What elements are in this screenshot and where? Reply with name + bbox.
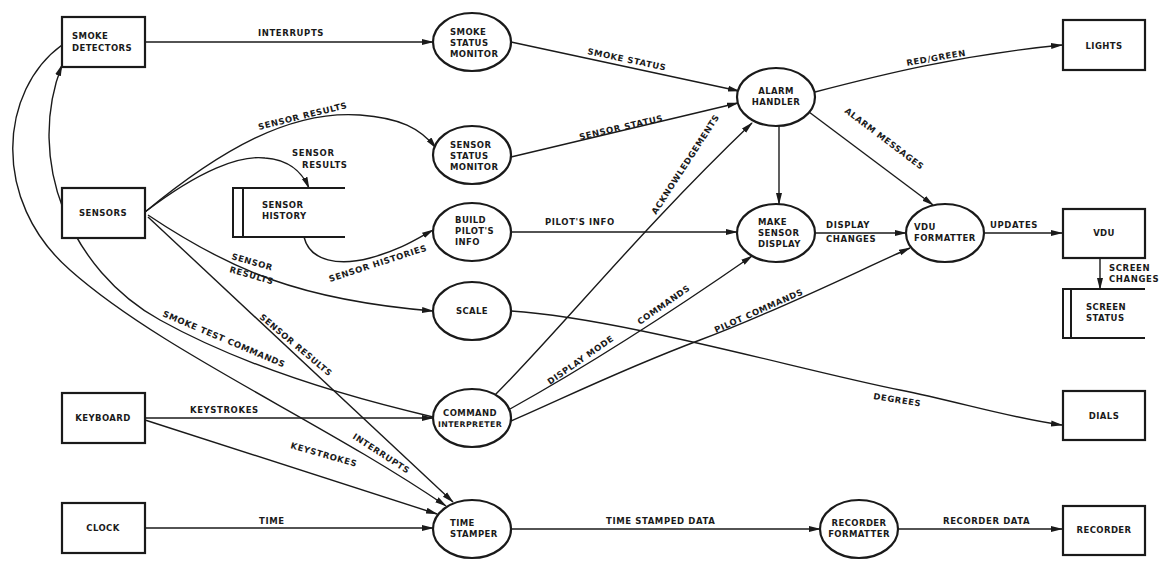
label-interrupts-bottom: INTERRUPTS: [351, 431, 412, 475]
node-lights[interactable]: LIGHTS: [1063, 20, 1145, 70]
label-recorder-data: RECORDER DATA: [943, 516, 1030, 526]
svg-text:KEYBOARD: KEYBOARD: [75, 413, 130, 423]
label-red-green: RED/GREEN: [906, 48, 967, 68]
process-vdu-formatter[interactable]: VDU FORMATTER: [906, 204, 984, 262]
svg-text:STATUS: STATUS: [450, 38, 488, 48]
flow-pilot-commands: [511, 248, 910, 421]
flow-labels: INTERRUPTS SMOKE STATUS SENSOR RESULTS S…: [161, 28, 1159, 526]
svg-text:SCREEN: SCREEN: [1086, 302, 1126, 312]
flow-degrees: [511, 311, 1062, 425]
label-pilot-commands: PILOT COMMANDS: [713, 287, 805, 335]
svg-text:INTERPRETER: INTERPRETER: [438, 420, 502, 429]
svg-text:STATUS: STATUS: [1086, 313, 1124, 323]
label-smoke-status: SMOKE STATUS: [587, 46, 668, 72]
node-smoke-detectors[interactable]: SMOKE DETECTORS: [62, 17, 145, 67]
label-display-changes-b: CHANGES: [826, 234, 876, 244]
node-keyboard[interactable]: KEYBOARD: [62, 393, 145, 443]
label-sensor-results-2b: RESULTS: [302, 160, 348, 170]
store-sensor-history[interactable]: SENSOR HISTORY: [233, 188, 345, 237]
label-screen-changes-b: CHANGES: [1109, 274, 1159, 284]
svg-text:HISTORY: HISTORY: [262, 211, 307, 221]
label-alarm-messages: ALARM MESSAGES: [843, 106, 926, 172]
flow-sensor-results-ts: [148, 217, 453, 502]
label-pilots-info: PILOT'S INFO: [545, 217, 615, 227]
svg-text:MONITOR: MONITOR: [450, 49, 498, 59]
svg-text:DISPLAY: DISPLAY: [758, 239, 801, 249]
node-recorder[interactable]: RECORDER: [1063, 506, 1145, 555]
svg-text:SCALE: SCALE: [456, 306, 488, 316]
label-sensor-status: SENSOR STATUS: [578, 113, 664, 142]
label-sensor-histories: SENSOR HISTORIES: [328, 243, 429, 284]
label-sensor-results-2a: SENSOR: [292, 148, 335, 158]
store-screen-status[interactable]: SCREEN STATUS: [1063, 289, 1145, 338]
svg-text:DIALS: DIALS: [1089, 411, 1119, 421]
flow-acknowledgements: [495, 123, 752, 395]
process-sensor-status-monitor[interactable]: SENSOR STATUS MONITOR: [433, 126, 511, 184]
svg-text:SMOKE: SMOKE: [72, 31, 108, 41]
svg-text:BUILD: BUILD: [455, 215, 486, 225]
label-sensor-results-1: SENSOR RESULTS: [257, 100, 348, 132]
svg-text:MAKE: MAKE: [758, 217, 787, 227]
svg-text:RECORDER: RECORDER: [1077, 525, 1132, 535]
label-time-stamped-data: TIME STAMPED DATA: [606, 516, 715, 526]
flow-smoke-status: [511, 42, 739, 91]
svg-text:PILOT'S: PILOT'S: [455, 226, 494, 236]
node-clock[interactable]: CLOCK: [62, 503, 145, 553]
svg-text:TIME: TIME: [450, 518, 475, 528]
svg-text:SENSORS: SENSORS: [79, 208, 127, 218]
terminators: SMOKE DETECTORS SENSORS KEYBOARD CLOCK L…: [62, 17, 1145, 555]
flows: [13, 42, 1100, 529]
process-command-interpreter[interactable]: COMMAND INTERPRETER: [433, 389, 511, 447]
svg-text:COMMAND: COMMAND: [443, 408, 497, 418]
flow-smoke-test-commands: [49, 65, 433, 417]
process-scale[interactable]: SCALE: [433, 282, 511, 340]
svg-text:VDU: VDU: [1093, 228, 1115, 238]
label-commands: COMMANDS: [635, 283, 692, 327]
svg-text:RECORDER: RECORDER: [832, 518, 887, 528]
svg-text:ALARM: ALARM: [758, 86, 794, 96]
svg-text:LIGHTS: LIGHTS: [1086, 41, 1123, 51]
svg-text:SENSOR: SENSOR: [450, 140, 491, 150]
svg-text:SENSOR: SENSOR: [758, 228, 799, 238]
svg-text:MONITOR: MONITOR: [450, 162, 498, 172]
process-make-sensor-display[interactable]: MAKE SENSOR DISPLAY: [737, 204, 815, 262]
svg-text:SMOKE: SMOKE: [450, 27, 486, 37]
label-screen-changes-a: SCREEN: [1109, 263, 1150, 273]
label-updates: UPDATES: [990, 220, 1038, 230]
label-keystrokes-1: KEYSTROKES: [190, 405, 259, 415]
process-time-stamper[interactable]: TIME STAMPER: [433, 500, 511, 558]
svg-text:VDU: VDU: [914, 222, 936, 232]
svg-text:DETECTORS: DETECTORS: [72, 43, 132, 53]
node-dials[interactable]: DIALS: [1063, 391, 1145, 440]
process-build-pilots-info[interactable]: BUILD PILOT'S INFO: [433, 203, 511, 261]
process-smoke-status-monitor[interactable]: SMOKE STATUS MONITOR: [433, 13, 511, 71]
svg-text:FORMATTER: FORMATTER: [828, 529, 890, 539]
svg-text:SENSOR: SENSOR: [262, 200, 303, 210]
data-flow-diagram: INTERRUPTS SMOKE STATUS SENSOR RESULTS S…: [0, 0, 1164, 567]
node-sensors[interactable]: SENSORS: [62, 188, 145, 238]
process-recorder-formatter[interactable]: RECORDER FORMATTER: [820, 500, 898, 558]
svg-text:HANDLER: HANDLER: [752, 97, 800, 107]
label-display-changes-a: DISPLAY: [826, 220, 870, 230]
svg-text:STATUS: STATUS: [450, 151, 488, 161]
svg-text:STAMPER: STAMPER: [450, 529, 498, 539]
process-alarm-handler[interactable]: ALARM HANDLER: [737, 68, 815, 126]
node-vdu[interactable]: VDU: [1063, 209, 1145, 258]
diagram-svg: INTERRUPTS SMOKE STATUS SENSOR RESULTS S…: [0, 0, 1164, 567]
svg-text:CLOCK: CLOCK: [86, 523, 119, 533]
svg-text:FORMATTER: FORMATTER: [914, 233, 976, 243]
label-interrupts-top: INTERRUPTS: [258, 28, 324, 38]
svg-text:INFO: INFO: [455, 237, 480, 247]
label-time: TIME: [259, 516, 285, 526]
